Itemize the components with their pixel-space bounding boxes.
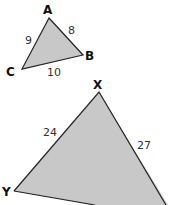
similar-triangles-diagram: A B C 9 8 10 X Y 24 27	[0, 0, 169, 205]
vertex-label-y: Y	[1, 185, 11, 199]
side-label-ab: 8	[68, 24, 75, 37]
side-label-xz: 27	[137, 139, 151, 152]
side-label-cb: 10	[47, 66, 61, 79]
vertex-label-a: A	[43, 3, 53, 17]
vertex-label-b: B	[85, 49, 94, 63]
side-label-ac: 9	[25, 34, 32, 47]
vertex-label-c: C	[6, 65, 15, 79]
large-triangle: X Y 24 27	[1, 78, 168, 205]
small-triangle: A B C 9 8 10	[6, 3, 94, 79]
vertex-label-x: X	[93, 78, 103, 92]
side-label-xy: 24	[43, 126, 57, 139]
